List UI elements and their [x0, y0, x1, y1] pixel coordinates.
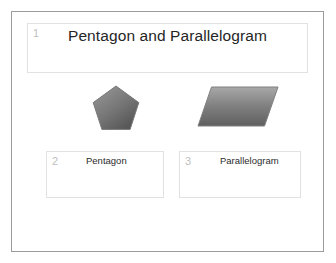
pentagon-shape[interactable] — [92, 85, 140, 131]
parallelogram-shape[interactable] — [197, 86, 279, 127]
placeholder-number-2: 2 — [52, 154, 58, 168]
title-placeholder[interactable]: 1 Pentagon and Parallelogram — [27, 23, 308, 73]
placeholder-number-3: 3 — [185, 154, 191, 168]
caption-placeholder-parallelogram[interactable]: 3 Parallelogram — [179, 151, 301, 198]
page-title: Pentagon and Parallelogram — [28, 27, 307, 45]
caption-label-pentagon: Pentagon — [86, 155, 127, 166]
caption-label-parallelogram: Parallelogram — [220, 155, 279, 166]
caption-placeholder-pentagon[interactable]: 2 Pentagon — [46, 151, 164, 198]
slide-canvas: 1 Pentagon and Parallelogram — [11, 11, 324, 252]
